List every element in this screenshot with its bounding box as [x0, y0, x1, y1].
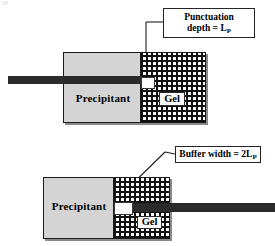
bottom-precipitant-label: Precipitant [45, 199, 113, 213]
top-precipitant-label: Precipitant [66, 91, 140, 105]
top-precipitant-block [63, 52, 143, 123]
bottom-gel-label: Gel [137, 216, 162, 229]
clipped-caption [0, 236, 275, 246]
top-capillary-needle [8, 76, 142, 84]
bottom-buffer-void [114, 202, 133, 215]
figure-canvas: Punctuation depth = LP Precipitant Gel B… [0, 0, 275, 246]
bottom-capillary-needle [130, 203, 275, 212]
top-gel-label: Gel [159, 92, 185, 106]
top-punctuation-void [141, 77, 155, 89]
